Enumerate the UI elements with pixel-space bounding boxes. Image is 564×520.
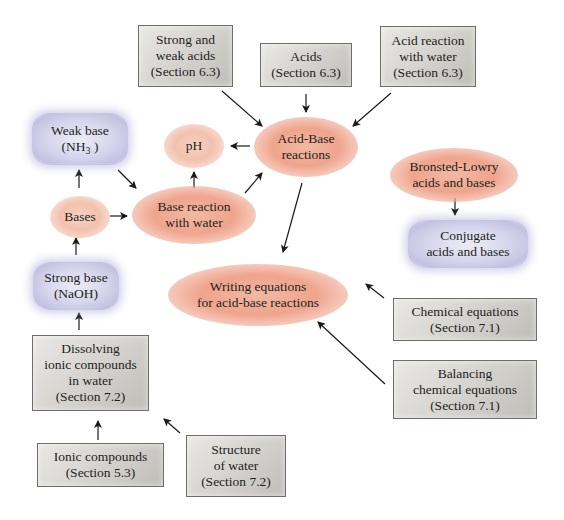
node-label: Structure xyxy=(201,442,271,458)
node-bases: Bases xyxy=(50,196,110,238)
node-label: reactions xyxy=(278,147,335,163)
arrow-chemical-eq-to-writing xyxy=(366,284,384,298)
node-strong-base: Strong base (NaOH) xyxy=(33,262,119,310)
node-dissolving: Dissolving ionic compounds in water (Sec… xyxy=(32,335,149,411)
node-writing-equations: Writing equations for acid-base reaction… xyxy=(168,264,348,326)
arrow-balancing-to-writing xyxy=(318,322,385,384)
node-label: Writing equations xyxy=(197,279,319,295)
node-label: Acid-Base xyxy=(278,131,335,147)
section-ref: (Section 6.3) xyxy=(151,64,221,80)
node-label: Bases xyxy=(64,209,96,225)
arrow-acid-base-to-writing xyxy=(283,183,302,252)
node-label: Strong base xyxy=(44,270,107,286)
node-label: for acid-base reactions xyxy=(197,295,319,311)
node-formula: (NH3 ) xyxy=(51,139,109,155)
node-acid-base-reactions: Acid-Base reactions xyxy=(254,117,358,177)
node-acid-reaction-water: Acid reaction with water (Section 6.3) xyxy=(380,26,476,87)
node-label: weak acids xyxy=(151,48,221,64)
node-label: Dissolving xyxy=(44,341,137,357)
section-ref: (Section 7.2) xyxy=(44,389,137,405)
node-strong-weak-acids: Strong and weak acids (Section 6.3) xyxy=(138,25,233,87)
node-chemical-equations: Chemical equations (Section 7.1) xyxy=(393,298,537,341)
node-label: acids and bases xyxy=(426,244,509,260)
node-label: ionic compounds xyxy=(44,357,137,373)
section-ref: (Section 7.1) xyxy=(413,398,517,414)
node-label: with water xyxy=(157,215,230,231)
formula-suffix: ) xyxy=(91,139,99,154)
section-ref: (Section 6.3) xyxy=(271,65,341,81)
node-label: with water xyxy=(391,49,464,65)
node-weak-base: Weak base (NH3 ) xyxy=(32,113,128,165)
formula-prefix: (NH xyxy=(62,139,86,154)
node-label: pH xyxy=(186,138,203,154)
node-base-reaction-water: Base reaction with water xyxy=(132,186,256,244)
node-label: Conjugate xyxy=(426,228,509,244)
node-label: Weak base xyxy=(51,123,109,139)
node-conjugate: Conjugate acids and bases xyxy=(408,220,528,268)
node-label: Bronsted-Lowry xyxy=(409,159,498,175)
node-label: chemical equations xyxy=(413,382,517,398)
node-label: Base reaction xyxy=(157,199,230,215)
node-ionic-compounds: Ionic compounds (Section 5.3) xyxy=(37,443,164,487)
node-formula: (NaOH) xyxy=(44,286,107,302)
section-ref: (Section 7.1) xyxy=(412,320,519,336)
arrow-structure-water-to-dissolving xyxy=(164,419,180,433)
arrow-base-reaction-to-acid-base xyxy=(245,173,262,193)
node-label: Chemical equations xyxy=(412,304,519,320)
node-balancing: Balancing chemical equations (Section 7.… xyxy=(393,360,537,419)
section-ref: (Section 6.3) xyxy=(391,65,464,81)
node-label: acids and bases xyxy=(409,175,498,191)
section-ref: (Section 7.2) xyxy=(201,474,271,490)
arrow-weak-base-to-base-reaction xyxy=(118,170,136,188)
node-bronsted-lowry: Bronsted-Lowry acids and bases xyxy=(390,148,518,202)
node-label: Ionic compounds xyxy=(54,449,147,465)
node-acids: Acids (Section 6.3) xyxy=(260,43,352,87)
node-label: of water xyxy=(201,458,271,474)
node-ph: pH xyxy=(164,124,224,168)
arrow-acid-reaction-to-acid-base xyxy=(353,93,391,126)
node-label: in water xyxy=(44,373,137,389)
section-ref: (Section 5.3) xyxy=(54,465,147,481)
node-structure-water: Structure of water (Section 7.2) xyxy=(186,435,286,497)
arrow-strong-weak-acids-to-acid-base xyxy=(222,91,262,126)
node-label: Strong and xyxy=(151,32,221,48)
node-label: Acid reaction xyxy=(391,33,464,49)
node-label: Balancing xyxy=(413,366,517,382)
node-label: Acids xyxy=(271,49,341,65)
